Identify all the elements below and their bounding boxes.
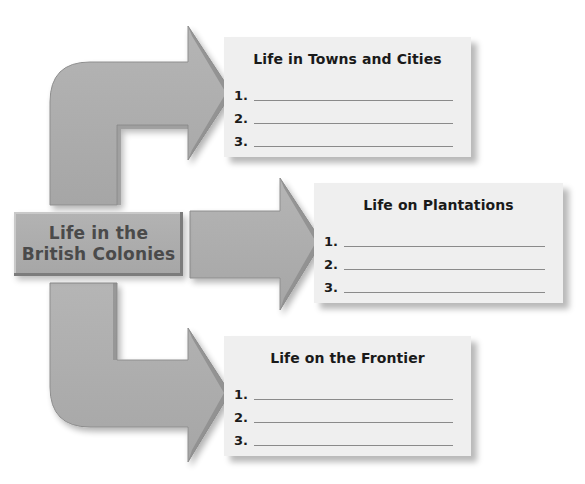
central-topic-line-2: British Colonies (22, 244, 176, 265)
line-number: 1. (324, 234, 344, 250)
central-topic-box: Life in the British Colonies (14, 212, 183, 276)
blank-answer-line[interactable] (254, 146, 453, 147)
note-line[interactable]: 3. (234, 127, 453, 150)
note-line[interactable]: 2. (234, 403, 453, 426)
note-line[interactable]: 2. (324, 250, 545, 273)
card-frontier: Life on the Frontier 1. 2. 3. (224, 336, 471, 456)
blank-answer-line[interactable] (344, 292, 545, 293)
central-topic-line-1: Life in the (49, 223, 148, 244)
note-line[interactable]: 1. (324, 227, 545, 250)
blank-answer-line[interactable] (254, 399, 453, 400)
card-towns-and-cities: Life in Towns and Cities 1. 2. 3. (224, 37, 471, 157)
card-plantations: Life on Plantations 1. 2. 3. (314, 183, 563, 303)
note-line[interactable]: 1. (234, 380, 453, 403)
arrow-to-frontier (50, 283, 230, 462)
note-line[interactable]: 3. (324, 273, 545, 296)
blank-answer-line[interactable] (254, 445, 453, 446)
line-number: 1. (234, 88, 254, 104)
line-number: 2. (234, 410, 254, 426)
blank-answer-line[interactable] (254, 422, 453, 423)
card-title: Life in Towns and Cities (234, 51, 453, 67)
line-number: 3. (234, 433, 254, 449)
line-number: 2. (324, 257, 344, 273)
card-title: Life on the Frontier (234, 350, 453, 366)
blank-answer-line[interactable] (254, 123, 453, 124)
card-title: Life on Plantations (324, 197, 545, 213)
blank-answer-line[interactable] (344, 269, 545, 270)
arrow-to-towns (50, 26, 232, 205)
note-line[interactable]: 2. (234, 104, 453, 127)
line-number: 2. (234, 111, 254, 127)
note-line[interactable]: 1. (234, 81, 453, 104)
arrow-to-plantations (190, 178, 322, 310)
blank-answer-line[interactable] (254, 100, 453, 101)
blank-answer-line[interactable] (344, 246, 545, 247)
note-line[interactable]: 3. (234, 426, 453, 449)
line-number: 3. (324, 280, 344, 296)
line-number: 3. (234, 134, 254, 150)
line-number: 1. (234, 387, 254, 403)
